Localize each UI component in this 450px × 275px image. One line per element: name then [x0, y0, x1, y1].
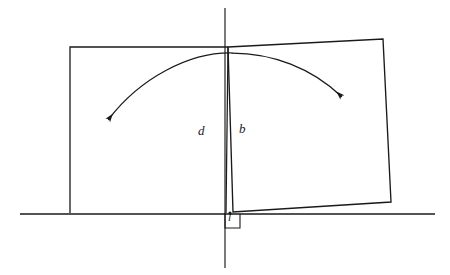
tilted-rectangle: [228, 39, 391, 212]
rotation-arc-right: [232, 53, 342, 97]
figure-canvas: d b l: [0, 0, 450, 275]
label-d: d: [198, 124, 205, 137]
rotation-arc-left: [109, 53, 233, 120]
diagram-svg: [0, 0, 450, 275]
label-b: b: [239, 122, 246, 135]
upright-rectangle-right-edge: [226, 47, 228, 213]
label-l: l: [228, 212, 231, 223]
